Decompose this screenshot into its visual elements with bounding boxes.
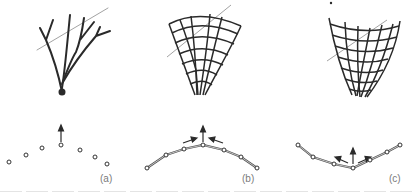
diagram-canvas xyxy=(0,0,414,193)
point-chain-a xyxy=(7,125,109,166)
arrow-inward-right-icon xyxy=(209,137,223,143)
arrow-up-icon xyxy=(351,148,356,164)
arrow-up-icon xyxy=(59,125,64,142)
panel-label-c: (c) xyxy=(389,173,401,184)
funnel-grid-figure xyxy=(327,2,400,97)
panel-label-b: (b) xyxy=(242,173,254,184)
point-chain-c xyxy=(296,143,402,170)
panel-label-a: (a) xyxy=(100,173,112,184)
arrow-up-icon xyxy=(201,126,206,142)
arrow-outward-left-icon xyxy=(335,157,348,164)
arrow-inward-left-icon xyxy=(183,137,197,143)
branching-tree-figure xyxy=(37,8,110,95)
point-chain-b xyxy=(145,126,259,170)
fan-grid-figure xyxy=(167,5,241,95)
clipped-caption xyxy=(0,189,414,193)
